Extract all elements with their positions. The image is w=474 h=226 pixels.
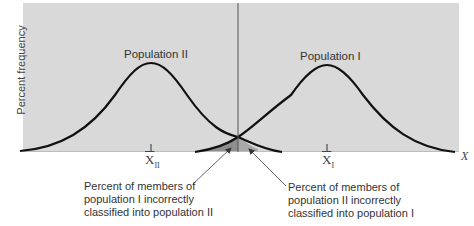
population-i-curve <box>195 65 455 152</box>
arrow-right <box>249 149 286 186</box>
overlap-region-left <box>200 136 238 151</box>
x-axis-label: X <box>461 149 468 164</box>
mean-label-ii: XII <box>145 152 160 170</box>
mean-label-i: XI <box>322 152 334 170</box>
population-i-label: Population I <box>300 50 361 62</box>
annotation-pop-ii-misclassified: Percent of members of population II inco… <box>288 181 414 220</box>
population-ii-curve <box>20 63 282 152</box>
arrow-left <box>193 148 231 184</box>
population-ii-label: Population II <box>124 48 188 60</box>
y-axis-label: Percent frequency <box>15 15 27 125</box>
annotation-pop-i-misclassified: Percent of members of population I incor… <box>84 180 213 219</box>
